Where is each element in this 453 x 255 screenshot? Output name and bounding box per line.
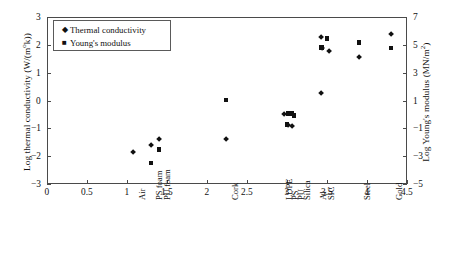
y-tick-left	[47, 156, 51, 157]
legend-label-youngs-modulus: Young's modulus	[70, 38, 131, 48]
material-label: Air	[137, 189, 147, 200]
y-tick-left	[47, 45, 51, 46]
y-tick-label-right: 1	[413, 96, 418, 106]
diamond-icon: ◆	[59, 26, 70, 34]
y-tick-left	[47, 101, 51, 102]
material-label: SIC	[326, 187, 336, 200]
material-label: Gold	[394, 183, 404, 200]
data-point-youngs-modulus	[149, 161, 154, 166]
y-tick-left	[47, 17, 51, 18]
data-point-youngs-modulus	[157, 147, 162, 152]
data-point-youngs-modulus	[285, 122, 290, 127]
y-tick-left	[47, 73, 51, 74]
y-tick-right	[403, 128, 407, 129]
data-point-youngs-modulus	[224, 98, 229, 103]
x-tick	[407, 180, 408, 184]
x-tick-label: 2	[205, 187, 210, 197]
y-tick-left	[47, 184, 51, 185]
y-axis-right-title-main: Log Young's modulus (MN/m	[421, 49, 431, 161]
data-point-youngs-modulus	[319, 45, 324, 50]
x-tick-label: 0.5	[81, 187, 93, 197]
y-axis-left-title-superscript: o	[20, 44, 28, 48]
y-tick-label-right: −3	[413, 151, 423, 161]
legend-item-youngs-modulus: ■ Young's modulus	[59, 36, 166, 49]
data-point-youngs-modulus	[357, 40, 362, 45]
y-tick-label-left: 2	[36, 40, 41, 50]
y-tick-right	[403, 73, 407, 74]
scatter-chart: Log thermal conductivity (W/(mok)) Log Y…	[0, 0, 453, 255]
y-tick-right	[403, 156, 407, 157]
material-label: Silica	[302, 180, 312, 200]
material-label: Steel	[362, 183, 372, 200]
material-label: Cork	[230, 183, 240, 200]
y-tick-label-right: −5	[413, 179, 423, 189]
y-tick-right	[403, 45, 407, 46]
data-point-youngs-modulus	[292, 113, 297, 118]
y-axis-right-title-superscript: 2	[419, 46, 427, 50]
y-axis-left-title-tail: k))	[22, 33, 32, 44]
x-tick	[327, 180, 328, 184]
y-tick-label-left: 3	[36, 12, 41, 22]
y-tick-label-left: −1	[31, 123, 41, 133]
y-tick-label-right: 3	[413, 68, 418, 78]
y-axis-right-title-tail: )	[421, 42, 431, 45]
y-tick-right	[403, 17, 407, 18]
x-tick-label: 0	[45, 187, 50, 197]
legend-label-thermal-conductivity: Thermal conductivity	[70, 25, 146, 35]
x-tick	[87, 180, 88, 184]
y-tick-label-left: 0	[36, 96, 41, 106]
data-point-youngs-modulus	[389, 46, 394, 51]
y-tick-label-right: 7	[413, 12, 418, 22]
y-tick-left	[47, 128, 51, 129]
y-tick-label-left: −2	[31, 151, 41, 161]
legend: ◆ Thermal conductivity ■ Young's modulus	[53, 20, 171, 51]
x-tick	[247, 180, 248, 184]
x-tick-label: 2.5	[241, 187, 253, 197]
legend-item-thermal-conductivity: ◆ Thermal conductivity	[59, 23, 166, 36]
y-tick-label-right: −1	[413, 123, 423, 133]
y-tick-label-left: −3	[31, 179, 41, 189]
y-tick-label-right: 5	[413, 40, 418, 50]
square-icon: ■	[59, 39, 70, 47]
x-tick	[127, 180, 128, 184]
material-label: PU foam	[162, 169, 172, 200]
y-tick-right	[403, 101, 407, 102]
data-point-youngs-modulus	[325, 36, 330, 41]
x-tick	[207, 180, 208, 184]
y-tick-label-left: 1	[36, 68, 41, 78]
x-tick-label: 1	[125, 187, 130, 197]
